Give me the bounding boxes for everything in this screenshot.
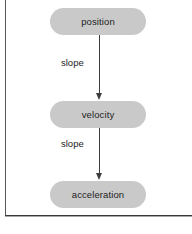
arrow-head-icon — [96, 93, 102, 100]
diagram-node-velocity: velocity — [50, 101, 146, 128]
edge-label-slope-2: slope — [61, 139, 84, 149]
diagram-node-label: acceleration — [72, 190, 124, 200]
arrow-head-icon — [96, 173, 102, 180]
arrow-line — [99, 128, 100, 174]
edge-label-slope-1: slope — [61, 58, 84, 68]
diagram-node-acceleration: acceleration — [50, 181, 146, 208]
flow-diagram: position slope velocity slope accelerati… — [0, 0, 192, 234]
diagram-node-position: position — [50, 8, 146, 35]
arrow-line — [99, 35, 100, 94]
diagram-node-label: position — [81, 17, 115, 27]
arrow-velocity-to-acceleration — [96, 128, 103, 181]
diagram-node-label: velocity — [82, 110, 114, 120]
arrow-position-to-velocity — [96, 35, 103, 101]
